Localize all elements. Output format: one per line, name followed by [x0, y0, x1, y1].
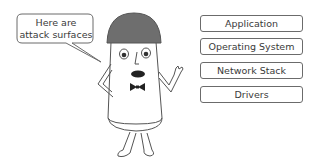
layer-box-drivers: Drivers [200, 86, 303, 103]
layer-box-application: Application [200, 15, 303, 32]
mascot-body [108, 40, 162, 131]
layer-box-network-stack: Network Stack [200, 62, 303, 79]
helmet-icon [107, 13, 161, 43]
mascot-legs [118, 132, 154, 157]
layer-box-operating-system: Operating System [200, 38, 303, 55]
mascot-mouth [131, 71, 145, 78]
mascot-right-arm [159, 66, 183, 92]
speech-bubble-line-2: attack surfaces [16, 29, 96, 41]
speech-bubble-line-1: Here are [16, 17, 96, 29]
speech-bubble-text: Here are attack surfaces [16, 17, 96, 41]
